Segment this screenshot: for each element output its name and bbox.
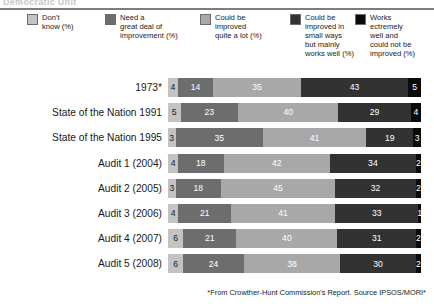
bar-segment-value: 6 <box>173 234 178 243</box>
chart-row-label: 1973* <box>0 82 168 93</box>
chart-row: Audit 2 (2005)31845322 <box>0 179 434 198</box>
chart-plot-area: 1973*41435435State of the Nation 1991523… <box>0 78 434 283</box>
bar-segment: 6 <box>168 254 183 273</box>
bar-segment: 29 <box>338 103 411 122</box>
stacked-bar: 62438302 <box>168 254 421 273</box>
bar-segment: 1 <box>418 204 421 223</box>
bar-segment: 45 <box>221 179 335 198</box>
stacked-bar: 52340294 <box>168 103 421 122</box>
bar-segment-value: 30 <box>373 260 383 269</box>
bar-segment: 43 <box>301 78 409 97</box>
bar-segment-value: 19 <box>385 134 395 143</box>
bar-segment-value: 43 <box>350 83 360 92</box>
legend-item: Works ectremely well and could not be im… <box>355 13 434 58</box>
bar-segment: 21 <box>183 229 236 248</box>
stacked-bar-chart: Democratic Unit Don't know (%)Need a gre… <box>0 0 434 307</box>
legend-item: Don't know (%) <box>27 13 105 31</box>
bar-segment: 31 <box>337 229 415 248</box>
bar-segment-value: 18 <box>194 184 204 193</box>
bar-segment-value: 42 <box>272 159 282 168</box>
bar-segment-value: 4 <box>171 209 176 218</box>
bar-segment-value: 5 <box>172 108 177 117</box>
bar-segment: 30 <box>340 254 416 273</box>
bar-segment: 14 <box>178 78 213 97</box>
chart-row: State of the Nation 199533541193 <box>0 128 434 147</box>
bar-segment: 2 <box>416 229 421 248</box>
bar-segment-value: 4 <box>171 159 176 168</box>
bar-segment: 3 <box>168 128 176 147</box>
bar-segment-value: 21 <box>205 234 215 243</box>
bar-segment: 4 <box>411 103 421 122</box>
legend-item-label: Need a great deal of improvement (%) <box>120 13 178 40</box>
bar-segment-value: 33 <box>372 209 382 218</box>
bar-segment: 2 <box>416 254 421 273</box>
bar-segment-value: 14 <box>191 83 201 92</box>
bar-segment-value: 31 <box>372 234 382 243</box>
stacked-bar: 33541193 <box>168 128 421 147</box>
chart-row-label: Audit 2 (2005) <box>0 183 168 194</box>
bar-segment-value: 41 <box>310 134 320 143</box>
chart-row-label: Audit 1 (2004) <box>0 158 168 169</box>
bar-segment: 23 <box>181 103 239 122</box>
chart-row: State of the Nation 199152340294 <box>0 103 434 122</box>
stacked-bar: 62140312 <box>168 229 421 248</box>
stacked-bar: 41435435 <box>168 78 421 97</box>
bar-segment-value: 35 <box>252 83 262 92</box>
bar-segment: 4 <box>168 204 178 223</box>
bar-segment: 2 <box>416 179 421 198</box>
stacked-bar: 31845322 <box>168 179 421 198</box>
bar-segment: 3 <box>168 179 176 198</box>
bar-segment: 21 <box>178 204 231 223</box>
header-divider <box>0 8 434 10</box>
legend-swatch-need-great-deal <box>105 14 116 25</box>
legend-item-label: Don't know (%) <box>42 13 74 31</box>
bar-segment-value: 2 <box>416 260 421 269</box>
bar-segment: 3 <box>413 128 421 147</box>
bar-segment-value: 32 <box>371 184 381 193</box>
chart-footnote: *From Crowther-Hunt Commission's Report.… <box>207 288 426 297</box>
legend-swatch-improved-small-ways <box>290 14 301 25</box>
bar-segment: 38 <box>244 254 340 273</box>
bar-segment: 4 <box>168 78 178 97</box>
bar-segment-value: 3 <box>169 134 174 143</box>
bar-segment-value: 3 <box>415 134 420 143</box>
bar-segment: 5 <box>168 103 181 122</box>
bar-segment-value: 21 <box>200 209 210 218</box>
chart-row: Audit 5 (2008)62438302 <box>0 254 434 273</box>
bar-segment-value: 18 <box>196 159 206 168</box>
bar-segment-value: 2 <box>416 184 421 193</box>
bar-segment-value: 38 <box>287 260 297 269</box>
bar-segment-value: 23 <box>205 108 215 117</box>
bar-segment-value: 4 <box>414 108 419 117</box>
bar-segment-value: 29 <box>370 108 380 117</box>
legend-item-label: Works ectremely well and could not be im… <box>370 13 415 58</box>
legend-item: Could be improved quite a lot (%) <box>200 13 293 40</box>
bar-segment: 40 <box>238 103 338 122</box>
legend-swatch-improved-quite-a-lot <box>200 14 211 25</box>
stacked-bar: 42141331 <box>168 204 421 223</box>
chart-row: Audit 4 (2007)62140312 <box>0 229 434 248</box>
bar-segment-value: 40 <box>282 234 292 243</box>
stacked-bar: 41842342 <box>168 154 421 173</box>
chart-row: 1973*41435435 <box>0 78 434 97</box>
chart-row: Audit 1 (2004)41842342 <box>0 154 434 173</box>
chart-row-label: Audit 5 (2008) <box>0 258 168 269</box>
bar-segment-value: 24 <box>209 260 219 269</box>
bar-segment: 33 <box>335 204 418 223</box>
bar-segment-value: 1 <box>418 209 421 218</box>
bar-segment: 41 <box>263 128 366 147</box>
bar-segment-value: 41 <box>278 209 288 218</box>
bar-segment-value: 6 <box>173 260 178 269</box>
bar-segment: 41 <box>231 204 335 223</box>
bar-segment-value: 40 <box>283 108 293 117</box>
legend-swatch-dont-know <box>27 14 38 25</box>
bar-segment: 6 <box>168 229 183 248</box>
bar-segment: 5 <box>408 78 421 97</box>
bar-segment-value: 45 <box>273 184 283 193</box>
chart-row: Audit 3 (2006)42141331 <box>0 204 434 223</box>
bar-segment-value: 34 <box>368 159 378 168</box>
chart-heading: Democratic Unit <box>3 0 77 5</box>
bar-segment: 34 <box>330 154 416 173</box>
bar-segment-value: 5 <box>412 83 417 92</box>
bar-segment-value: 4 <box>171 83 176 92</box>
